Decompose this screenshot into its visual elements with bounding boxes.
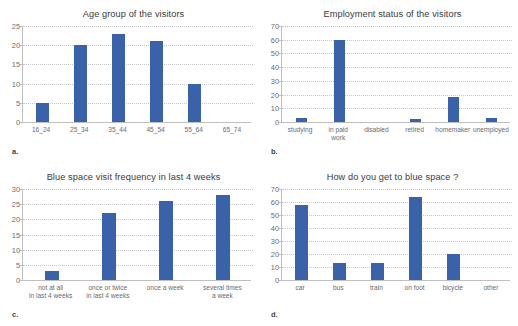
bar <box>410 119 421 122</box>
y-tick-label: 60 <box>271 35 279 44</box>
bar-slot <box>23 26 61 122</box>
x-axis-labels-d: carbustrainon footbicycleother <box>281 284 510 292</box>
bar-series <box>23 189 251 280</box>
bar-slot <box>99 26 137 122</box>
bar <box>334 40 345 122</box>
plot-wrap-c: 051015202530 not at all in last 4 weekso… <box>22 189 251 300</box>
x-tick-label: once or twice in last 4 weeks <box>79 284 136 300</box>
bar <box>112 34 125 122</box>
panel-letter-a: a. <box>12 147 18 156</box>
y-tick-label: 5 <box>16 98 20 107</box>
x-tick-label: unemployed <box>472 126 510 142</box>
x-tick-label: 35_44 <box>98 126 136 134</box>
y-tick-label: 0 <box>275 276 279 285</box>
bar <box>188 84 201 122</box>
plot-area-d: 010203040506070 <box>281 189 510 281</box>
bar-slot <box>320 26 358 122</box>
bar-slot <box>396 26 434 122</box>
y-tick-label: 0 <box>275 118 279 127</box>
x-tick-label: homemaker <box>434 126 472 142</box>
x-axis-labels-c: not at all in last 4 weeksonce or twice … <box>22 284 251 300</box>
bar-slot <box>23 189 80 280</box>
bar-slot <box>282 189 320 280</box>
bar-series <box>282 26 510 122</box>
plot-wrap-a: 0510152025 16_2425_3435_4445_5455_6465_7… <box>22 26 251 134</box>
x-tick-label: 55_64 <box>175 126 213 134</box>
x-tick-label: bus <box>319 284 357 292</box>
chart-title-d: How do you get to blue space ? <box>259 163 518 183</box>
chart-panel-d: How do you get to blue space ? 010203040… <box>259 163 518 326</box>
bar-slot <box>396 189 434 280</box>
bar-slot <box>80 189 137 280</box>
bar <box>36 103 49 122</box>
x-tick-label: not at all in last 4 weeks <box>22 284 79 300</box>
x-axis-labels-b: studyingin paid workdisabledretiredhomem… <box>281 126 510 142</box>
bar <box>447 254 460 280</box>
y-tick-label: 0 <box>16 276 20 285</box>
bar <box>216 195 230 280</box>
y-tick-label: 70 <box>271 22 279 31</box>
x-tick-label: 25_34 <box>60 126 98 134</box>
bar <box>448 97 459 122</box>
y-tick-label: 15 <box>12 60 20 69</box>
chart-panel-a: Age group of the visitors 0510152025 16_… <box>0 0 259 163</box>
y-tick-label: 15 <box>12 230 20 239</box>
y-tick-label: 10 <box>12 79 20 88</box>
x-tick-label: other <box>472 284 510 292</box>
y-tick-label: 40 <box>271 63 279 72</box>
x-tick-label: retired <box>396 126 434 142</box>
plot-area-b: 010203040506070 <box>281 26 510 123</box>
bar-slot <box>472 26 510 122</box>
y-tick-label: 20 <box>12 215 20 224</box>
bar-slot <box>61 26 99 122</box>
x-tick-label: 16_24 <box>22 126 60 134</box>
panel-letter-b: b. <box>271 147 278 156</box>
bar <box>486 118 497 122</box>
y-tick-label: 50 <box>271 211 279 220</box>
y-tick-label: 60 <box>271 198 279 207</box>
bar-slot <box>282 26 320 122</box>
y-tick-label: 0 <box>16 118 20 127</box>
y-tick-label: 30 <box>271 76 279 85</box>
y-tick-mark <box>279 280 282 281</box>
y-tick-mark <box>20 122 23 123</box>
y-tick-label: 5 <box>16 260 20 269</box>
bar-slot <box>137 189 194 280</box>
x-tick-label: disabled <box>357 126 395 142</box>
bar <box>409 197 422 280</box>
x-tick-label: bicycle <box>434 284 472 292</box>
bar-series <box>23 26 251 122</box>
bar <box>45 271 59 280</box>
y-tick-label: 10 <box>271 104 279 113</box>
bar-series <box>282 189 510 280</box>
x-tick-label: studying <box>281 126 319 142</box>
y-tick-label: 10 <box>271 263 279 272</box>
x-tick-label: 65_74 <box>213 126 251 134</box>
y-tick-label: 20 <box>12 41 20 50</box>
chart-title-a: Age group of the visitors <box>0 0 259 20</box>
y-tick-label: 20 <box>271 250 279 259</box>
x-tick-label: once a week <box>137 284 194 300</box>
bar <box>296 118 307 122</box>
x-axis-labels-a: 16_2425_3435_4445_5455_6465_74 <box>22 126 251 134</box>
plot-area-a: 0510152025 <box>22 26 251 123</box>
chart-panel-b: Employment status of the visitors 010203… <box>259 0 518 163</box>
bar-slot <box>137 26 175 122</box>
bar <box>150 41 163 122</box>
bar <box>371 263 384 280</box>
bar-slot <box>320 189 358 280</box>
chart-title-b: Employment status of the visitors <box>259 0 518 20</box>
x-tick-label: on foot <box>396 284 434 292</box>
y-tick-mark <box>20 280 23 281</box>
plot-wrap-d: 010203040506070 carbustrainon footbicycl… <box>281 189 510 292</box>
bar-slot <box>175 26 213 122</box>
y-tick-label: 20 <box>271 90 279 99</box>
x-tick-label: in paid work <box>319 126 357 142</box>
plot-area-c: 051015202530 <box>22 189 251 281</box>
figure-grid: Age group of the visitors 0510152025 16_… <box>0 0 518 326</box>
x-tick-label: several times a week <box>194 284 251 300</box>
panel-letter-c: c. <box>12 310 18 319</box>
bar <box>74 45 87 122</box>
panel-letter-d: d. <box>271 310 278 319</box>
bar <box>102 213 116 280</box>
